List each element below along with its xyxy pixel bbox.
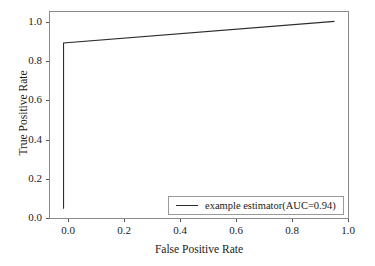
xtick-mark: [180, 219, 181, 222]
xtick-label: 0.0: [46, 224, 90, 237]
xtick-label: 0.8: [270, 224, 314, 237]
x-axis-label: False Positive Rate: [49, 243, 349, 255]
xtick-mark: [124, 219, 125, 222]
legend-line-swatch: [176, 205, 198, 206]
xtick-label: 0.6: [214, 224, 258, 237]
ytick-mark: [46, 61, 49, 62]
legend-item-label: example estimator(AUC=0.94): [205, 200, 336, 212]
ytick-mark: [46, 22, 49, 23]
xtick-mark: [292, 219, 293, 222]
ytick-mark: [46, 100, 49, 101]
ytick-mark: [46, 179, 49, 180]
roc-curve-line: [50, 12, 348, 218]
xtick-label: 1.0: [326, 224, 370, 237]
xtick-label: 0.2: [102, 224, 146, 237]
xtick-mark: [68, 219, 69, 222]
xtick-mark: [236, 219, 237, 222]
legend-box: example estimator(AUC=0.94): [168, 196, 344, 215]
ytick-mark: [46, 218, 49, 219]
ytick-label: 1.0: [4, 15, 42, 28]
ytick-mark: [46, 140, 49, 141]
xtick-label: 0.4: [158, 224, 202, 237]
y-axis-label: True Positive Rate: [17, 33, 29, 193]
ytick-label: 0.0: [4, 211, 42, 224]
legend-item: example estimator(AUC=0.94): [176, 200, 336, 212]
roc-curve-figure: 0.0 0.2 0.4 0.6 0.8 1.0 0.0 0.2 0.4 0.6 …: [0, 0, 375, 266]
plot-area: [49, 11, 349, 219]
xtick-mark: [348, 219, 349, 222]
